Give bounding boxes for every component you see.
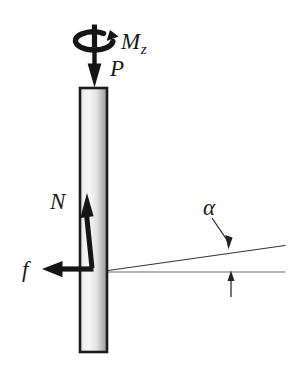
diagram-canvas	[0, 0, 299, 367]
inclined-surface-line	[101, 246, 285, 272]
angle-pointer-upper	[212, 218, 233, 250]
axial-load-label: P	[110, 57, 124, 80]
normal-force-label: N	[50, 190, 65, 213]
torque-label-subscript: z	[141, 41, 147, 57]
axial-load-arrow	[88, 50, 102, 88]
angle-label: α	[203, 196, 215, 219]
torque-label-symbol: M	[121, 29, 140, 54]
mechanics-diagram: Mz P N f α	[0, 0, 299, 367]
angle-pointer-lower	[228, 271, 235, 298]
friction-force-label: f	[22, 258, 28, 281]
torque-arrow	[76, 25, 119, 51]
vertical-bar	[80, 88, 107, 352]
torque-label: Mz	[121, 30, 147, 57]
